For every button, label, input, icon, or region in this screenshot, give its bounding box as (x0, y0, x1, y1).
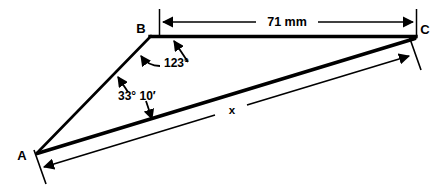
angle-label-a: 33° 10′ (118, 89, 156, 103)
angle-b-curved-arrow (141, 56, 160, 66)
extension-tick-c (409, 36, 421, 70)
geometry-diagram: A B C 71 mm x 123° 33° 10′ (0, 0, 438, 188)
vertex-label-a: A (17, 148, 27, 163)
dimension-ac-group (44, 56, 409, 167)
angle-a-lower-arrow (146, 101, 152, 119)
dimension-label-ac: x (229, 104, 236, 116)
dimension-label-bc: 71 mm (267, 15, 307, 29)
triangle-outline (37, 36, 416, 154)
vertex-label-c: C (420, 22, 430, 37)
vertex-label-b: B (136, 21, 145, 36)
dimension-ac-left-segment (44, 115, 215, 167)
triangle-figure-svg: A B C 71 mm x 123° 33° 10′ (0, 0, 438, 188)
extension-lines-ac (34, 36, 421, 184)
angle-label-b: 123° (164, 56, 189, 70)
